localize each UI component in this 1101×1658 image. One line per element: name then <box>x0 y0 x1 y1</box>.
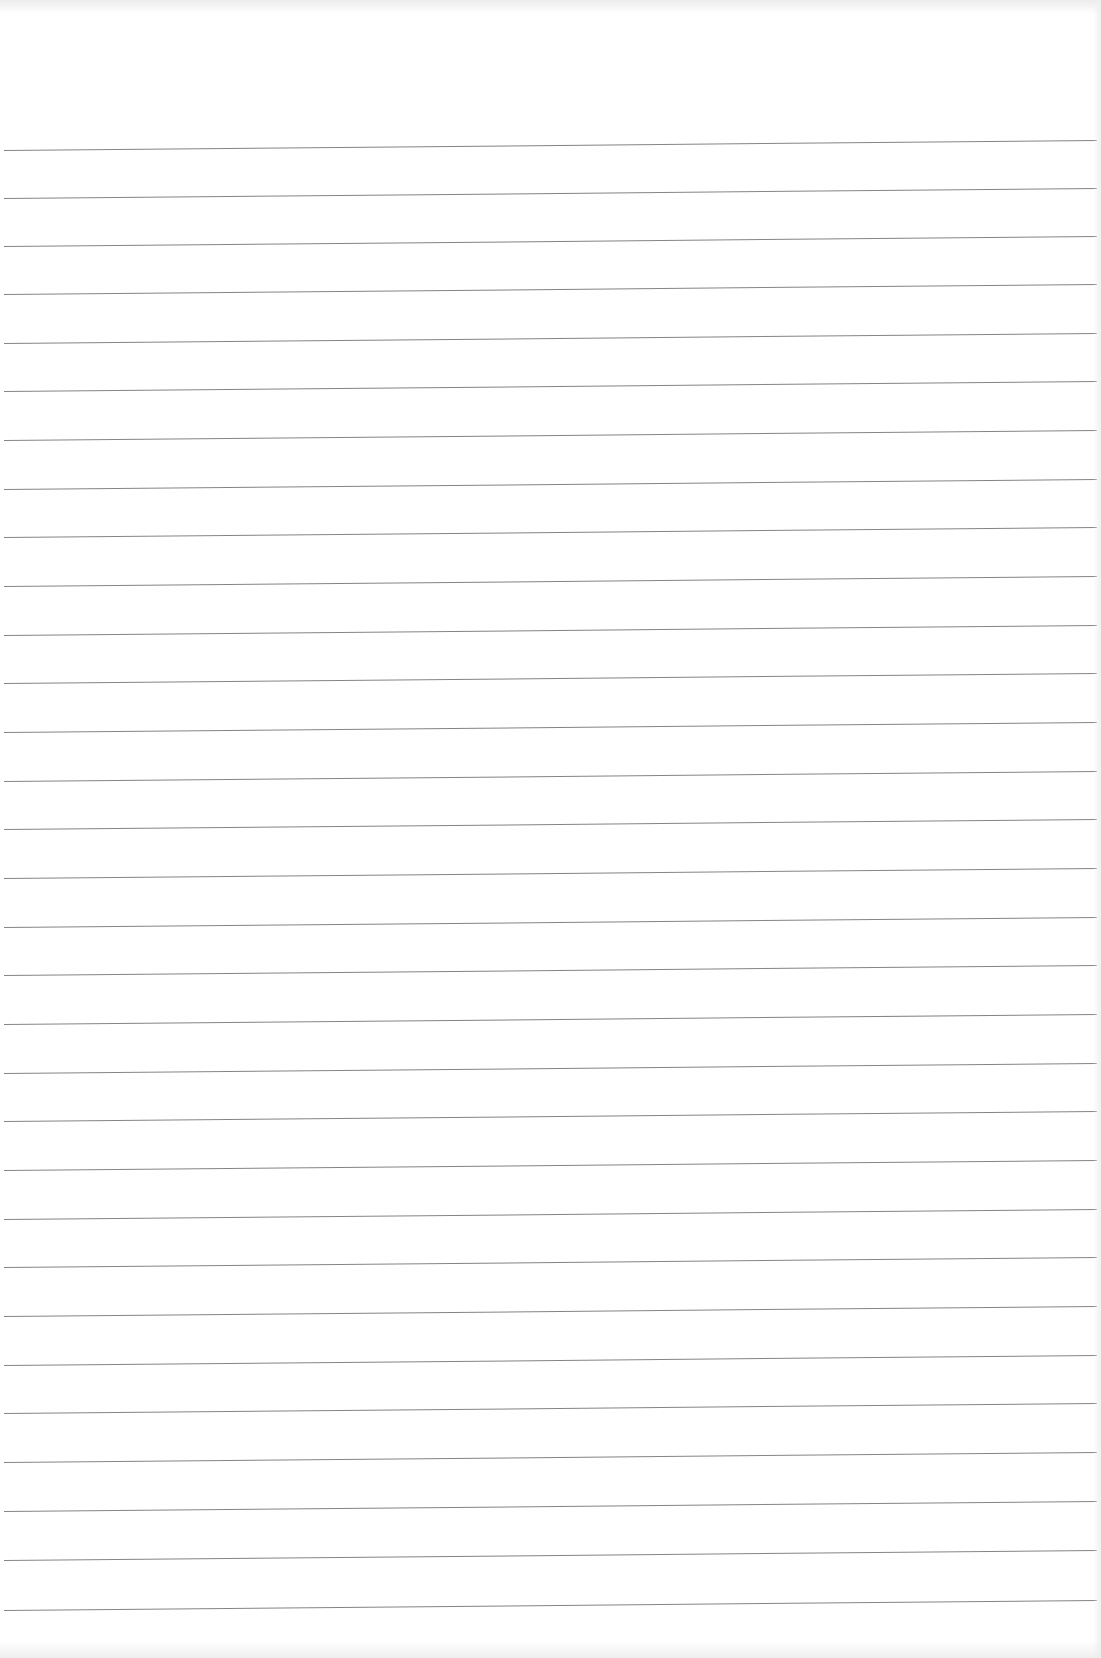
ruled-line <box>4 236 1097 247</box>
ruled-line <box>4 1403 1097 1414</box>
ruled-line <box>4 1355 1097 1366</box>
ruled-line <box>4 1160 1097 1171</box>
ruled-line <box>4 1550 1097 1561</box>
ruled-line <box>4 917 1097 928</box>
ruled-line <box>4 430 1097 441</box>
ruled-line <box>4 1501 1097 1512</box>
ruled-line <box>4 965 1097 976</box>
ruled-line <box>4 1063 1097 1074</box>
ruled-line <box>4 771 1097 782</box>
ruled-line <box>4 479 1097 490</box>
scan-right-edge <box>1093 0 1101 1658</box>
ruled-line <box>4 1257 1097 1268</box>
ruled-line <box>4 868 1097 879</box>
ruled-line <box>4 527 1097 538</box>
ruled-line <box>4 140 1097 151</box>
ruled-line <box>4 1209 1097 1220</box>
ruled-line <box>4 722 1097 733</box>
ruled-line <box>4 625 1097 636</box>
ruled-line <box>4 333 1097 344</box>
ruled-line <box>4 284 1097 295</box>
ruled-line <box>4 819 1097 830</box>
ruled-line <box>4 1306 1097 1317</box>
ruled-line <box>4 673 1097 684</box>
ruled-line <box>4 1111 1097 1122</box>
ruled-line <box>4 1600 1097 1611</box>
ruled-line <box>4 1452 1097 1463</box>
scan-bottom-shadow <box>0 1642 1101 1658</box>
ruled-line <box>4 1014 1097 1025</box>
ruled-line <box>4 188 1097 199</box>
lined-paper-page <box>0 0 1101 1658</box>
ruled-line <box>4 381 1097 392</box>
ruled-line <box>4 576 1097 587</box>
scan-top-shadow <box>0 0 1101 14</box>
